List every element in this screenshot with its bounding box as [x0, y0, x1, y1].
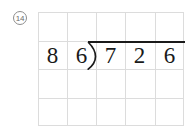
grid-line-horizontal [38, 125, 184, 126]
grid-line-horizontal [38, 12, 184, 13]
long-division-expression: 8 6 7 2 6 [38, 41, 185, 70]
dividend-digit: 2 [125, 41, 154, 70]
divisor-digit: 8 [38, 41, 67, 70]
long-division-worksheet: 14 8 6 7 2 6 [0, 0, 192, 130]
dividend-digit: 6 [155, 41, 184, 70]
dividend-digit: 7 [96, 41, 125, 70]
grid-line-horizontal [38, 98, 184, 99]
problem-number-badge: 14 [13, 11, 27, 25]
